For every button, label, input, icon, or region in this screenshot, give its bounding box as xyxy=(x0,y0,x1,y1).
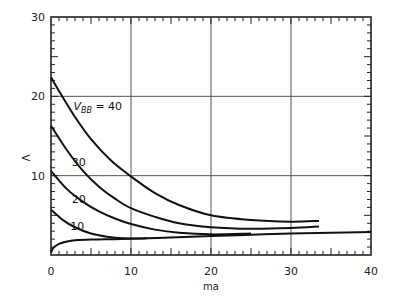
y-tick-label: 20 xyxy=(31,90,45,103)
x-tick-label: 10 xyxy=(124,265,138,278)
x-axis-label: ma xyxy=(203,281,219,292)
x-tick-label: 0 xyxy=(48,265,55,278)
y-tick-label: 10 xyxy=(31,170,45,183)
curve-v-bb-30 xyxy=(51,126,319,229)
chart: 010203040102030 VBB = 40302010 ma V xyxy=(0,0,395,300)
curve-label: 30 xyxy=(72,156,86,169)
y-tick-label: 30 xyxy=(31,11,45,24)
tick-labels: 010203040102030 xyxy=(31,11,378,278)
grid-lines xyxy=(51,17,371,255)
x-tick-label: 30 xyxy=(284,265,298,278)
curve-label: 20 xyxy=(72,193,86,206)
curve-label: VBB = 40 xyxy=(73,100,122,115)
x-tick-label: 40 xyxy=(364,265,378,278)
y-axis-label: V xyxy=(20,155,31,162)
x-tick-label: 20 xyxy=(204,265,218,278)
curve-label: 10 xyxy=(70,220,84,233)
